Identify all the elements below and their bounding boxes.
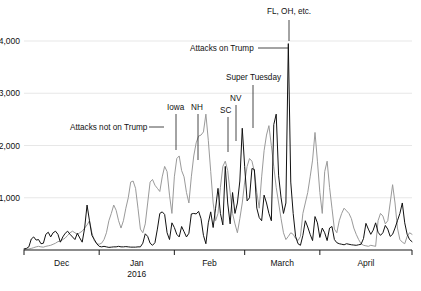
x-tick-label-dec: Dec xyxy=(54,258,70,268)
series-line-attacks-not-on-trump xyxy=(24,114,412,249)
annotation-label-attacks-on-trump: Attacks on Trump xyxy=(190,44,254,53)
y-tick-label: 1,000 xyxy=(0,193,20,203)
annotation-label-sc: SC xyxy=(220,106,231,115)
plot-lines-group xyxy=(24,44,412,250)
y-tick-label: 3,000 xyxy=(0,88,20,98)
annotation-label-iowa: Iowa xyxy=(167,103,185,112)
x-tick-label-march: March xyxy=(270,258,294,268)
x-axis-group xyxy=(24,250,412,255)
annotation-label-nh: NH xyxy=(191,103,203,112)
x-tick-label-april: April xyxy=(357,258,374,268)
x-axis-labels-group: DecJan2016FebMarchApril xyxy=(54,258,375,279)
y-axis-labels-group: 1,0002,0003,0004,000 xyxy=(0,36,20,203)
annotation-label-super-tuesday: Super Tuesday xyxy=(226,73,282,82)
y-tick-label: 2,000 xyxy=(0,141,20,151)
annotation-label-attacks-not-on-trump: Attacks not on Trump xyxy=(70,123,148,132)
annotation-label-nv: NV xyxy=(230,94,242,103)
annotation-label-fl-oh-etc: FL, OH, etc. xyxy=(267,7,311,16)
x-tick-sublabel-year: 2016 xyxy=(127,269,146,279)
x-tick-label-jan: Jan xyxy=(130,258,144,268)
chart-container: 1,0002,0003,0004,000 DecJan2016FebMarchA… xyxy=(0,0,421,291)
x-tick-label-feb: Feb xyxy=(202,258,217,268)
annotations-group: FL, OH, etc.Attacks on TrumpSuper Tuesda… xyxy=(70,7,311,160)
attacks-timeline-chart: 1,0002,0003,0004,000 DecJan2016FebMarchA… xyxy=(0,0,421,291)
series-line-attacks-on-trump xyxy=(24,44,412,249)
y-tick-label: 4,000 xyxy=(0,36,20,46)
gridlines-group xyxy=(24,41,412,198)
